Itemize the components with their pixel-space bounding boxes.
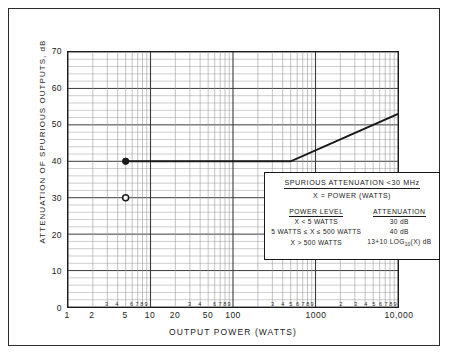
- x-minor-tick-label: 6: [379, 301, 382, 307]
- annotation-column-header: POWER LEVEL: [269, 206, 364, 216]
- x-minor-tick-label: 8: [140, 301, 143, 307]
- x-minor-tick-label: 7: [135, 301, 138, 307]
- x-minor-tick-label: 3: [271, 301, 274, 307]
- annotation-row: X < 5 WATTS30 dB: [269, 216, 435, 226]
- x-minor-tick-label: 6: [296, 301, 299, 307]
- x-minor-tick-label: 9: [394, 301, 397, 307]
- annotation-row: 5 WATTS ≤ X ≤ 500 WATTS40 dB: [269, 226, 435, 236]
- x-tick-label: 50: [203, 310, 213, 320]
- annotation-column-header: ATTENUATION: [364, 206, 435, 216]
- y-tick-label: 40: [52, 156, 62, 166]
- y-tick-label: 30: [52, 193, 62, 203]
- x-minor-tick-label: 3: [105, 301, 108, 307]
- x-minor-tick-label: 4: [115, 301, 118, 307]
- x-minor-tick-label: 3: [188, 301, 191, 307]
- y-tick-label: 0: [57, 303, 62, 313]
- x-tick-label: 20: [170, 310, 180, 320]
- x-minor-tick-label: 5: [372, 301, 375, 307]
- x-axis-title: OUTPUT POWER (WATTS): [67, 327, 399, 337]
- x-minor-tick-label: 8: [223, 301, 226, 307]
- x-minor-tick-label: 4: [198, 301, 201, 307]
- x-minor-tick-label: 9: [145, 301, 148, 307]
- x-minor-tick-label: 4: [364, 301, 367, 307]
- x-minor-tick-label: 7: [384, 301, 387, 307]
- figure-border: ATTENUATION OF SPURIOUS OUTPUTS, dB 0102…: [8, 8, 440, 346]
- x-tick-label: 1: [64, 310, 69, 320]
- y-tick-label: 20: [52, 230, 62, 240]
- x-minor-tick-label: 8: [389, 301, 392, 307]
- y-axis-tick-labels: 010203040506070: [9, 51, 62, 308]
- annotation-attenuation: 40 dB: [364, 226, 435, 236]
- annotation-table: POWER LEVELATTENUATIONX < 5 WATTS30 dB5 …: [269, 206, 435, 249]
- x-minor-tick-label: 7: [218, 301, 221, 307]
- x-minor-tick-label: 2: [339, 301, 342, 307]
- y-tick-label: 50: [52, 119, 62, 129]
- x-tick-label: 10,000: [385, 310, 414, 320]
- y-tick-label: 60: [52, 83, 62, 93]
- y-tick-label: 10: [52, 266, 62, 276]
- annotation-power-level: X > 500 WATTS: [269, 237, 364, 250]
- x-tick-label: 100: [225, 310, 241, 320]
- x-axis-major-tick-labels: 125102050100100010,000: [67, 310, 399, 324]
- x-minor-tick-label: 4: [281, 301, 284, 307]
- annotation-title: SPURIOUS ATTENUATION <30 MHz: [269, 178, 435, 188]
- x-minor-tick-label: 7: [301, 301, 304, 307]
- y-tick-label: 70: [52, 46, 62, 56]
- annotation-box: SPURIOUS ATTENUATION <30 MHz X = POWER (…: [264, 172, 440, 260]
- x-tick-label: 2: [89, 310, 94, 320]
- x-minor-tick-label: 9: [228, 301, 231, 307]
- x-minor-tick-label: 6: [130, 301, 133, 307]
- x-minor-tick-label: 8: [306, 301, 309, 307]
- annotation-attenuation: 13+10 LOG10(X) dB: [364, 237, 435, 250]
- annotation-power-level: X < 5 WATTS: [269, 216, 364, 226]
- annotation-subtitle: X = POWER (WATTS): [269, 192, 435, 199]
- annotation-power-level: 5 WATTS ≤ X ≤ 500 WATTS: [269, 226, 364, 236]
- annotation-row: X > 500 WATTS13+10 LOG10(X) dB: [269, 237, 435, 250]
- x-minor-tick-label: 9: [311, 301, 314, 307]
- annotation-title-text: SPURIOUS ATTENUATION <30 MHz: [284, 178, 419, 189]
- annotation-attenuation: 30 dB: [364, 216, 435, 226]
- x-tick-label: 5: [122, 310, 127, 320]
- annotation-header-row: POWER LEVELATTENUATION: [269, 206, 435, 216]
- x-minor-tick-label: 5: [289, 301, 292, 307]
- x-tick-label: 1000: [306, 310, 327, 320]
- x-minor-tick-label: 6: [213, 301, 216, 307]
- x-tick-label: 10: [145, 310, 155, 320]
- x-minor-tick-label: 3: [354, 301, 357, 307]
